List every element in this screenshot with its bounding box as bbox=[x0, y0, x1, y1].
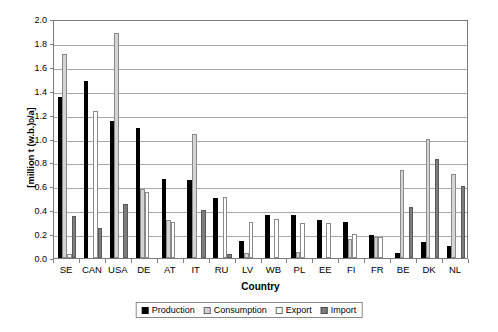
bar-group-bars bbox=[287, 21, 313, 258]
bars-layer bbox=[54, 21, 467, 258]
bar-import bbox=[409, 207, 414, 258]
bar-group-bars bbox=[313, 21, 339, 258]
x-tick-label: CAN bbox=[82, 264, 102, 276]
x-tick-mark bbox=[390, 259, 391, 263]
y-tick-label: 0.2 bbox=[34, 231, 47, 240]
x-tick-label: DE bbox=[137, 264, 150, 276]
bar-export bbox=[145, 192, 150, 258]
x-tick-label: PL bbox=[294, 264, 306, 276]
bar-group bbox=[287, 21, 313, 258]
x-tick-mark bbox=[105, 259, 106, 263]
bar-group-bars bbox=[184, 21, 210, 258]
bar-import bbox=[227, 254, 232, 258]
x-tick-mark bbox=[286, 259, 287, 263]
x-tick-label: BE bbox=[397, 264, 410, 276]
legend-swatch-export-icon bbox=[276, 307, 283, 314]
y-tick-label: 1.8 bbox=[34, 39, 47, 48]
bar-group bbox=[443, 21, 469, 258]
bar-import bbox=[435, 159, 440, 258]
legend-label: Production bbox=[152, 305, 195, 315]
legend-item-consumption: Consumption bbox=[204, 305, 267, 315]
x-tick-mark bbox=[338, 259, 339, 263]
bar-group bbox=[365, 21, 391, 258]
legend-swatch-production-icon bbox=[142, 307, 149, 314]
bar-group bbox=[158, 21, 184, 258]
legend-item-export: Export bbox=[276, 305, 312, 315]
x-axis-title: Country bbox=[53, 281, 468, 292]
x-tick-label: FR bbox=[371, 264, 384, 276]
y-tick-label: 0.0 bbox=[34, 255, 47, 264]
bar-group bbox=[391, 21, 417, 258]
plot-area bbox=[53, 20, 468, 259]
y-tick-label: 1.4 bbox=[34, 87, 47, 96]
bar-import bbox=[123, 204, 128, 258]
bar-group bbox=[184, 21, 210, 258]
bar-export bbox=[378, 237, 383, 259]
x-tick-label: AT bbox=[164, 264, 175, 276]
bar-export bbox=[274, 219, 279, 258]
legend-label: Import bbox=[331, 305, 357, 315]
x-tick-label: LV bbox=[242, 264, 253, 276]
bar-production bbox=[213, 198, 218, 258]
legend-swatch-consumption-icon bbox=[204, 307, 211, 314]
bar-production bbox=[84, 81, 89, 258]
bar-export bbox=[171, 222, 176, 258]
bar-import bbox=[98, 228, 103, 258]
bar-group bbox=[339, 21, 365, 258]
bar-group bbox=[132, 21, 158, 258]
bar-group bbox=[417, 21, 443, 258]
x-tick-mark bbox=[157, 259, 158, 263]
x-tick-label: IT bbox=[191, 264, 199, 276]
bar-group bbox=[236, 21, 262, 258]
y-tick-label: 1.6 bbox=[34, 63, 47, 72]
legend-item-production: Production bbox=[142, 305, 195, 315]
bar-group-bars bbox=[158, 21, 184, 258]
bar-group bbox=[106, 21, 132, 258]
bar-group-bars bbox=[210, 21, 236, 258]
bar-group-bars bbox=[365, 21, 391, 258]
x-axis-labels: SECANUSADEATITRULVWBPLEEFIFRBEDKNL bbox=[53, 264, 468, 278]
y-tick-label: 1.2 bbox=[34, 111, 47, 120]
bar-group-bars bbox=[339, 21, 365, 258]
bar-group bbox=[80, 21, 106, 258]
bar-group bbox=[210, 21, 236, 258]
y-tick-label: 0.4 bbox=[34, 207, 47, 216]
x-tick-mark bbox=[364, 259, 365, 263]
bar-consumption bbox=[114, 33, 119, 258]
bar-group-bars bbox=[106, 21, 132, 258]
bar-production bbox=[317, 220, 322, 258]
bar-group bbox=[313, 21, 339, 258]
x-tick-mark bbox=[53, 259, 54, 263]
bar-export bbox=[223, 197, 228, 258]
bar-group-bars bbox=[417, 21, 443, 258]
bar-group-bars bbox=[236, 21, 262, 258]
x-tick-label: EE bbox=[319, 264, 332, 276]
x-tick-mark bbox=[416, 259, 417, 263]
y-tick-label: 2.0 bbox=[34, 16, 47, 25]
x-tick-mark bbox=[131, 259, 132, 263]
x-tick-label: WB bbox=[266, 264, 281, 276]
x-tick-label: SE bbox=[60, 264, 73, 276]
bar-consumption bbox=[451, 174, 456, 258]
x-tick-mark bbox=[312, 259, 313, 263]
y-tick-label: 0.8 bbox=[34, 159, 47, 168]
x-tick-mark bbox=[183, 259, 184, 263]
bar-import bbox=[461, 186, 466, 258]
bar-import bbox=[201, 210, 206, 258]
x-tick-label: FI bbox=[347, 264, 355, 276]
bar-group bbox=[54, 21, 80, 258]
bar-chart: [million t (w.b.)D/a] 0.00.20.40.60.81.0… bbox=[0, 0, 498, 332]
bar-consumption bbox=[62, 54, 67, 258]
y-tick-label: 0.6 bbox=[34, 183, 47, 192]
bar-export bbox=[352, 234, 357, 258]
x-tick-label: DK bbox=[422, 264, 435, 276]
bar-export bbox=[249, 222, 254, 258]
y-tick-label: 1.0 bbox=[34, 135, 47, 144]
legend-label: Consumption bbox=[214, 305, 267, 315]
bar-consumption bbox=[192, 134, 197, 258]
x-tick-mark bbox=[235, 259, 236, 263]
x-tick-label: NL bbox=[449, 264, 461, 276]
legend-item-import: Import bbox=[321, 305, 357, 315]
x-tick-mark bbox=[442, 259, 443, 263]
legend-label: Export bbox=[286, 305, 312, 315]
